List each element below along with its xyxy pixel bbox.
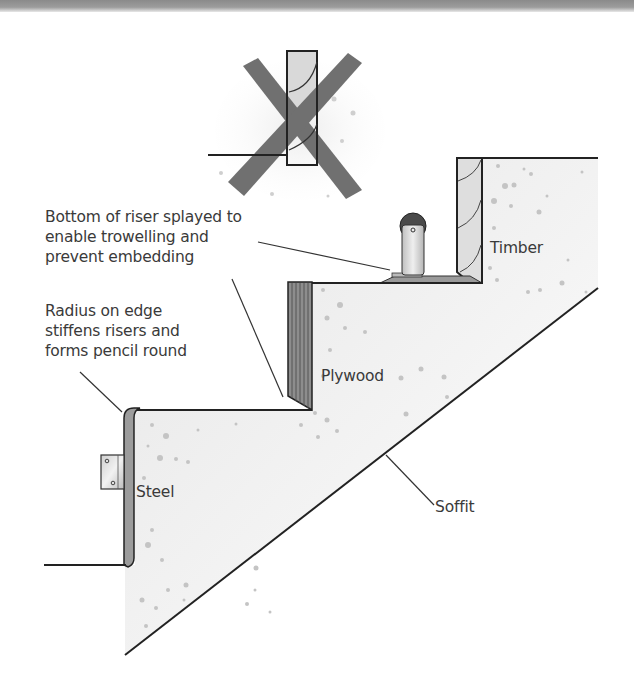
annotation-line: Radius on edge xyxy=(45,301,187,321)
label-soffit: Soffit xyxy=(435,497,474,517)
annotation-radius: Radius on edge stiffens risers and forms… xyxy=(45,301,187,361)
annotation-line: stiffens risers and xyxy=(45,321,187,341)
label-plywood: Plywood xyxy=(321,366,384,386)
wrong-riser-example xyxy=(208,51,385,200)
annotation-line: Bottom of riser splayed to xyxy=(45,207,242,227)
annotation-line: prevent embedding xyxy=(45,247,242,267)
annotation-line: forms pencil round xyxy=(45,341,187,361)
annotation-line: enable trowelling and xyxy=(45,227,242,247)
annotation-splayed: Bottom of riser splayed to enable trowel… xyxy=(45,207,242,267)
label-steel: Steel xyxy=(136,482,174,502)
label-timber: Timber xyxy=(490,238,543,258)
